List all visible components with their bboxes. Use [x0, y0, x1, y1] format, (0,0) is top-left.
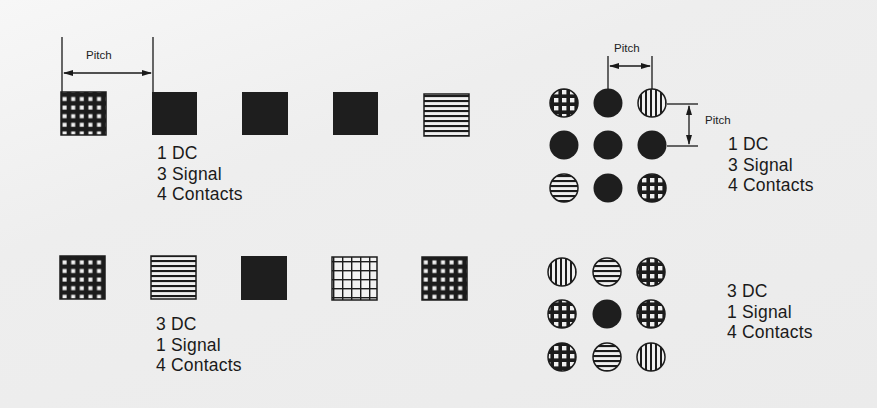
contact-fine-grid [422, 257, 467, 300]
pitch-label-grid-vertical: Pitch [705, 114, 731, 126]
contact-solid [638, 131, 667, 160]
contact-solid [593, 300, 622, 329]
grid-layout-3dc-1signal [548, 258, 665, 371]
linear-layout-1dc-3signal [61, 92, 469, 136]
contact-grid-circle [637, 258, 665, 286]
contact-vertical-stripes [637, 343, 665, 371]
caption-signal-count: 1 Signal [156, 335, 242, 356]
caption-grid-1dc-3signal: 1 DC 3 Signal 4 Contacts [728, 134, 814, 196]
contact-solid [594, 174, 623, 203]
caption-dc-count: 1 DC [157, 143, 243, 164]
contact-open-grid [332, 257, 377, 300]
caption-dc-count: 3 DC [156, 314, 242, 335]
contact-horizontal-stripes [424, 94, 469, 136]
contact-solid [241, 256, 287, 300]
contact-fine-grid [60, 256, 105, 299]
contact-solid [242, 92, 288, 135]
contact-horizontal-stripes [151, 256, 196, 299]
contact-grid-circle [550, 89, 578, 117]
linear-layout-3dc-1signal [60, 256, 467, 300]
connector-pitch-diagram [0, 0, 877, 408]
grid-pitch-dimension-horizontal [608, 56, 652, 89]
caption-linear-1dc-3signal: 1 DC 3 Signal 4 Contacts [157, 143, 243, 205]
contact-horizontal-stripes [593, 258, 621, 286]
caption-dc-count: 3 DC [727, 281, 813, 302]
caption-contact-count: 4 Contacts [728, 175, 814, 196]
grid-pitch-dimension-vertical [667, 104, 698, 146]
contact-horizontal-stripes [593, 343, 621, 371]
contact-fine-grid [61, 92, 106, 135]
contact-vertical-stripes [548, 258, 576, 286]
caption-signal-count: 3 Signal [157, 164, 243, 185]
caption-contact-count: 4 Contacts [157, 184, 243, 205]
caption-dc-count: 1 DC [728, 134, 814, 155]
contact-grid-circle [638, 174, 666, 202]
contact-vertical-stripes [638, 89, 666, 117]
caption-contact-count: 4 Contacts [156, 355, 242, 376]
caption-signal-count: 3 Signal [728, 155, 814, 176]
contact-solid [594, 131, 623, 160]
contact-solid [594, 89, 623, 118]
pitch-label-linear: Pitch [86, 49, 112, 61]
caption-signal-count: 1 Signal [727, 302, 813, 323]
contact-solid [152, 92, 197, 135]
grid-layout-1dc-3signal [550, 89, 667, 203]
linear-pitch-dimension [62, 37, 153, 92]
contact-solid [333, 92, 378, 135]
caption-grid-3dc-1signal: 3 DC 1 Signal 4 Contacts [727, 281, 813, 343]
contact-grid-circle [637, 300, 665, 328]
contact-grid-circle [548, 343, 576, 371]
contact-solid [550, 131, 579, 160]
pitch-label-grid-horizontal: Pitch [614, 42, 640, 54]
caption-linear-3dc-1signal: 3 DC 1 Signal 4 Contacts [156, 314, 242, 376]
contact-horizontal-stripes [550, 174, 578, 202]
contact-grid-circle [548, 300, 576, 328]
caption-contact-count: 4 Contacts [727, 322, 813, 343]
